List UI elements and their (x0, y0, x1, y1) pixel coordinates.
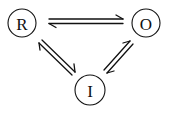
arrow-i-to-r (39, 43, 72, 75)
arrow-o-to-i (107, 44, 133, 73)
edge-r-i (39, 40, 75, 75)
reaction-diagram: R O I (0, 0, 169, 115)
node-i-label: I (87, 82, 93, 101)
edge-o-i (104, 41, 133, 73)
arrow-r-to-i (42, 40, 75, 72)
node-r-label: R (16, 15, 28, 34)
node-o: O (132, 9, 160, 37)
arrow-i-to-o (104, 41, 130, 70)
node-r: R (8, 9, 36, 37)
node-i: I (75, 75, 105, 105)
node-o-label: O (140, 15, 152, 34)
edge-r-o (49, 15, 123, 28)
